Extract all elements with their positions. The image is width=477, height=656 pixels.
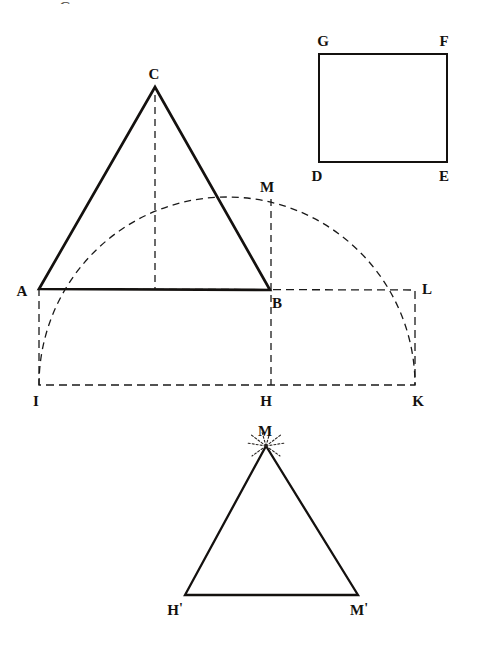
geometry-figure: A B C M I H K L G F D E M H M G bbox=[0, 0, 477, 656]
point-label-h-prime: H bbox=[167, 603, 183, 618]
triangle-m-hprime-mprime bbox=[185, 446, 358, 595]
point-label-e: E bbox=[439, 169, 449, 184]
point-label-h: H bbox=[260, 394, 272, 409]
dashed-construction-group bbox=[39, 95, 415, 385]
point-label-b: B bbox=[272, 296, 282, 311]
point-label-d: D bbox=[312, 169, 323, 184]
point-label-l: L bbox=[422, 282, 432, 297]
triangle-abc bbox=[39, 87, 270, 290]
point-label-i: I bbox=[33, 394, 39, 409]
point-label-a: A bbox=[17, 284, 28, 299]
point-label-m-apex-lower: M bbox=[258, 424, 272, 439]
figure-canvas bbox=[0, 0, 477, 656]
point-label-m: M bbox=[260, 180, 274, 195]
solid-figures-group bbox=[39, 54, 447, 595]
cropped-glyph-top-edge: G bbox=[59, 0, 71, 4]
point-label-m-prime: M bbox=[350, 603, 368, 618]
point-label-g: G bbox=[317, 34, 329, 49]
point-label-k: K bbox=[412, 394, 424, 409]
rectangle-a-i-k-l bbox=[39, 289, 415, 385]
point-label-f: F bbox=[439, 34, 448, 49]
square-gfed bbox=[319, 54, 447, 162]
point-label-c: C bbox=[149, 67, 160, 82]
